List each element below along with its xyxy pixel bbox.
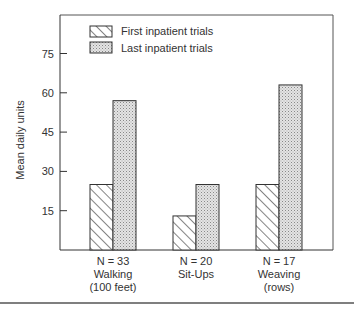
legend-swatch-first bbox=[90, 26, 112, 37]
bar-last-sit-ups bbox=[196, 185, 219, 251]
category-unit-label: (100 feet) bbox=[89, 281, 136, 293]
bar-last-weaving bbox=[279, 85, 302, 250]
category-name-label: Walking bbox=[94, 268, 133, 280]
y-ticks: 1530456075 bbox=[42, 48, 67, 217]
legend-label-first: First inpatient trials bbox=[121, 25, 214, 37]
y-tick-label: 75 bbox=[42, 48, 54, 60]
bars bbox=[90, 85, 302, 250]
y-tick-label: 30 bbox=[42, 165, 54, 177]
y-tick-label: 60 bbox=[42, 87, 54, 99]
category-name-label: Sit-Ups bbox=[178, 268, 215, 280]
bar-first-weaving bbox=[256, 185, 279, 251]
category-n-label: N = 33 bbox=[97, 255, 130, 267]
legend: First inpatient trials Last inpatient tr… bbox=[90, 25, 214, 54]
legend-label-last: Last inpatient trials bbox=[121, 42, 213, 54]
bar-first-walking bbox=[90, 185, 113, 251]
bar-first-sit-ups bbox=[173, 216, 196, 250]
category-labels: N = 33Walking(100 feet)N = 20Sit-UpsN = … bbox=[89, 255, 300, 293]
y-tick-label: 45 bbox=[42, 126, 54, 138]
y-tick-label: 15 bbox=[42, 205, 54, 217]
bar-last-walking bbox=[113, 101, 136, 250]
legend-swatch-last bbox=[90, 42, 112, 53]
category-n-label: N = 17 bbox=[263, 255, 296, 267]
y-axis-label: Mean daily units bbox=[14, 100, 26, 180]
category-n-label: N = 20 bbox=[180, 255, 213, 267]
category-name-label: Weaving bbox=[258, 268, 301, 280]
bar-chart: 1530456075 N = 33Walking(100 feet)N = 20… bbox=[0, 0, 354, 309]
category-unit-label: (rows) bbox=[264, 281, 295, 293]
